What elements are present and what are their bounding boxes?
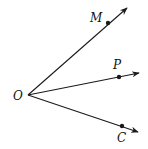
point-p <box>117 75 121 79</box>
label-c: C <box>117 131 126 145</box>
label-o: O <box>13 89 23 103</box>
angle-diagram: MPCO <box>0 0 148 149</box>
point-c <box>120 124 124 128</box>
label-p: P <box>112 58 122 72</box>
point-m <box>106 21 110 25</box>
label-m: M <box>89 11 103 25</box>
ray-om <box>28 8 127 95</box>
ray-op <box>28 73 139 95</box>
